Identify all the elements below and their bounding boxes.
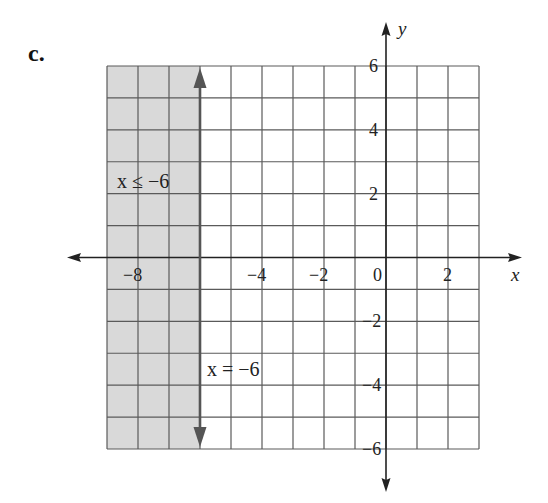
- y-tick-label: 6: [369, 56, 378, 76]
- x-axis-arrow-right-icon: [508, 253, 522, 262]
- y-tick-label: −4: [362, 375, 381, 395]
- x-tick-label: 2: [443, 265, 452, 285]
- y-tick-label: 4: [369, 120, 378, 140]
- y-tick-label: 2: [369, 184, 378, 204]
- y-axis-arrow-down-icon: [382, 478, 391, 492]
- y-tick-label: −2: [362, 311, 381, 331]
- boundary-equation-label: x = −6: [207, 358, 260, 380]
- x-tick-label: −4: [247, 265, 266, 285]
- x-axis-label: x: [510, 264, 520, 285]
- x-tick-label: −8: [123, 265, 142, 285]
- y-axis-arrow-up-icon: [382, 22, 391, 36]
- x-tick-label: 0: [373, 265, 382, 285]
- y-axis-label: y: [396, 18, 407, 39]
- y-tick-label: −6: [362, 439, 381, 459]
- inequality-figure: c. yx−8−4−202642−2−4−6x ≤ −6x = −6: [0, 0, 548, 503]
- x-tick-label: −2: [309, 265, 328, 285]
- coordinate-plane: yx−8−4−202642−2−4−6x ≤ −6x = −6: [0, 0, 548, 503]
- inequality-label: x ≤ −6: [117, 170, 169, 192]
- part-label: c.: [28, 40, 45, 67]
- x-axis-arrow-left-icon: [67, 253, 81, 262]
